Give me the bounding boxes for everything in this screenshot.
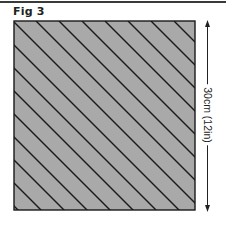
arrow-down-icon: [205, 205, 210, 212]
dimension-label: 30cm (12in): [202, 84, 214, 145]
arrow-up-icon: [205, 20, 210, 27]
hatched-square-diagram: [0, 0, 226, 228]
